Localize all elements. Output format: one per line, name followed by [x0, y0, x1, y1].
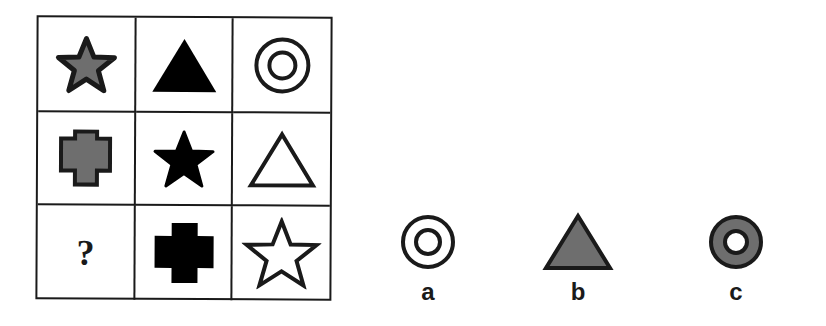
triangle-black-icon [149, 34, 219, 94]
grid-cell-r1c2 [136, 18, 233, 113]
double-circle-white-icon [251, 34, 313, 96]
option-label-a: a [421, 280, 434, 304]
cross-gray-icon [57, 128, 115, 188]
star-gray-icon [53, 34, 119, 94]
grid-cell-r3c1: ? [37, 205, 135, 299]
option-c[interactable]: c [706, 212, 766, 304]
grid-cell-r2c2 [136, 113, 233, 206]
star-black-icon [150, 128, 216, 188]
double-circle-white-icon [398, 212, 458, 272]
grid-cell-r1c1 [38, 17, 136, 112]
grid-cell-r2c3 [233, 113, 330, 206]
cross-black-icon [151, 221, 215, 285]
star-white-icon [241, 217, 321, 289]
option-label-c: c [729, 280, 742, 304]
grid-cell-r2c1 [38, 112, 136, 205]
triangle-white-icon [246, 129, 316, 189]
grid-cell-r1c3 [233, 18, 330, 113]
puzzle-grid: ? [35, 15, 332, 300]
option-a[interactable]: a [398, 212, 458, 304]
option-label-b: b [571, 280, 586, 304]
triangle-gray-icon [542, 212, 614, 272]
question-mark: ? [76, 232, 94, 274]
grid-cell-r3c3 [232, 206, 329, 300]
ring-gray-icon [706, 212, 766, 272]
grid-cell-r3c2 [135, 206, 232, 300]
option-b[interactable]: b [542, 212, 614, 304]
